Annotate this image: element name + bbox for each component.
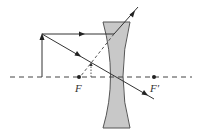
focal-label-right: F′ xyxy=(149,82,160,94)
ray-arrow-icon xyxy=(79,32,85,37)
concave-lens xyxy=(103,22,130,128)
ray-arrow-icon xyxy=(75,51,82,57)
diverging-lens-diagram: F F′ xyxy=(0,0,198,138)
focal-label-left: F xyxy=(74,82,82,94)
ray-arrow-icon xyxy=(130,11,136,18)
central-ray xyxy=(42,34,154,99)
focal-point-right xyxy=(152,75,156,79)
focal-point-left xyxy=(77,75,81,79)
ray-arrow-icon xyxy=(142,90,149,96)
